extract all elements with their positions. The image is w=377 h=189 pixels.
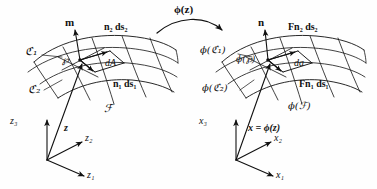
deformed-point-label: ϕ(℘) <box>236 55 255 64</box>
figure-canvas: ϕ(z) m n₂ ds₂ dA n₁ ds₁ ℭ₁ ℭ₂ ℘ ℱ z z₃ z… <box>0 0 377 189</box>
axis-label-x3: x₃ <box>199 116 207 126</box>
reference-position-vector-label: z <box>64 123 68 133</box>
axis-label-x2: x₂ <box>274 133 282 143</box>
map-arrow-label: ϕ(z) <box>174 4 193 15</box>
reference-curve1-label: ℭ₁ <box>25 46 37 57</box>
reference-edge2-label: n₂ ds₂ <box>104 22 128 32</box>
deformed-surface-label: ϕ(ℱ) <box>288 101 311 111</box>
deformed-normal-arrow <box>265 30 268 60</box>
axis-label-z2: z₂ <box>85 133 92 143</box>
reference-position-vector <box>47 64 82 160</box>
axis-label-z3: z₃ <box>10 116 17 126</box>
reference-surface-label: ℱ <box>104 103 113 114</box>
reference-curve2-label: ℭ₂ <box>28 84 40 95</box>
deformed-curve1-label: ϕ(ℭ₁) <box>200 45 226 55</box>
phi-curve2-leader <box>240 80 254 90</box>
axis-label-x1: x₁ <box>276 170 284 180</box>
reference-point-label: ℘ <box>62 55 69 65</box>
reference-area-element <box>80 51 124 72</box>
map-arrow-path <box>157 19 222 33</box>
diagram-vector-graphics <box>0 0 377 189</box>
deformed-area-element <box>268 51 312 72</box>
deformed-normal-label: n <box>258 17 264 28</box>
axis-label-z1: z₁ <box>87 170 94 180</box>
deformed-edge2-label: Fn₂ ds₂ <box>288 22 318 32</box>
reference-normal-arrow <box>75 30 80 60</box>
deformed-edge1-label: Fn₁ ds₁ <box>299 79 329 89</box>
deformed-curve2-label: ϕ(ℭ₂) <box>202 83 228 93</box>
reference-normal-label: m <box>65 17 74 28</box>
reference-area-label: dA <box>105 58 116 68</box>
reference-edge1-label: n₁ ds₁ <box>113 79 137 89</box>
deformed-area-label: da <box>294 58 304 68</box>
